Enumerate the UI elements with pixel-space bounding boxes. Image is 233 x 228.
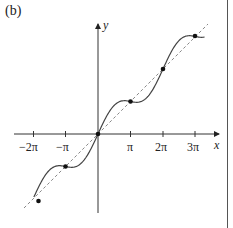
x-tick-label-3pi: 3π (187, 140, 199, 155)
x-tick-label-neg2pi: −2π (19, 140, 38, 155)
chart-plot (0, 0, 233, 228)
x-axis-label: x (214, 138, 219, 153)
x-tick-label-pi: π (127, 140, 133, 155)
y-axis-label: y (103, 18, 108, 33)
x-tick-label-2pi: 2π (155, 140, 167, 155)
panel-border (227, 0, 228, 228)
x-tick-label-negpi: −π (56, 140, 69, 155)
identity-line (24, 24, 208, 208)
